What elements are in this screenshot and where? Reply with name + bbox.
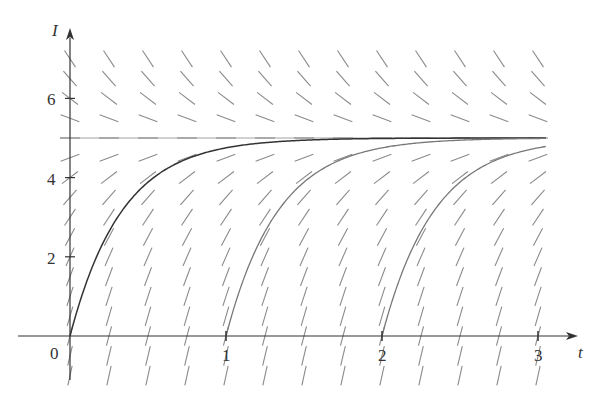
slope-segment — [224, 366, 228, 386]
slope-segment — [179, 92, 195, 104]
slope-segment — [178, 154, 197, 161]
slope-segment — [184, 287, 190, 306]
slope-segment — [257, 172, 273, 184]
slope-segment — [217, 115, 236, 122]
direction-field-plot — [0, 0, 597, 399]
y-tick-label-6: 6 — [47, 91, 56, 108]
slope-segment — [258, 190, 271, 205]
slope-segment — [101, 92, 117, 104]
slope-segment — [533, 50, 544, 67]
slope-segment — [412, 154, 431, 161]
slope-segment — [262, 287, 268, 306]
slope-segment — [455, 50, 466, 67]
slope-segment — [183, 267, 190, 286]
slope-segment — [100, 154, 119, 161]
slope-segment — [223, 287, 229, 306]
slope-segment — [456, 267, 463, 286]
slope-segment — [455, 209, 466, 226]
slope-segment — [417, 267, 424, 286]
slope-segment — [458, 346, 463, 365]
slope-segment — [457, 307, 463, 326]
slope-segment — [496, 287, 502, 306]
slope-segment — [179, 172, 195, 184]
solution-curve-1 — [226, 138, 546, 336]
y-axis-label: I — [52, 22, 58, 39]
slope-segment — [377, 209, 388, 226]
slope-segment — [530, 172, 546, 184]
slope-segment — [340, 307, 346, 326]
slope-segment — [296, 92, 312, 104]
slope-segment — [379, 287, 385, 306]
slope-segment — [492, 190, 505, 205]
slope-segment — [180, 190, 193, 205]
slope-segment — [490, 115, 509, 122]
slope-segment — [374, 92, 390, 104]
slope-segment — [533, 228, 542, 246]
slope-segment — [373, 115, 392, 122]
slope-segment — [141, 71, 154, 86]
slope-segment — [416, 209, 427, 226]
slope-segment — [256, 115, 275, 122]
slope-segment — [261, 267, 268, 286]
slope-segment — [533, 209, 544, 226]
slope-segment — [458, 366, 462, 386]
slope-segment — [336, 71, 349, 86]
slope-segment — [143, 228, 152, 246]
slope-segment — [452, 92, 468, 104]
y-tick-label-4: 4 — [47, 171, 56, 188]
slope-segment — [455, 228, 464, 246]
slope-segment — [139, 154, 158, 161]
slope-segment — [143, 209, 154, 226]
slope-segment — [490, 154, 509, 161]
slope-segment — [378, 267, 385, 286]
slope-segment — [295, 115, 314, 122]
x-axis-label: t — [578, 344, 583, 361]
slope-segment — [222, 248, 230, 266]
slope-segment — [529, 154, 548, 161]
slope-segment — [418, 307, 424, 326]
slope-segment — [341, 366, 345, 386]
slope-segment — [335, 92, 351, 104]
slope-segment — [300, 248, 308, 266]
slope-segment — [453, 190, 466, 205]
slope-segment — [141, 190, 154, 205]
slope-segment — [218, 92, 234, 104]
slope-segment — [262, 307, 268, 326]
y-tick-label-2: 2 — [47, 250, 56, 267]
slope-segment — [377, 228, 386, 246]
slope-segment — [102, 71, 115, 86]
slope-segment — [105, 248, 113, 266]
slope-segment — [263, 366, 267, 386]
slope-segment — [104, 50, 115, 67]
slope-segment — [182, 50, 193, 67]
slope-segment — [338, 228, 347, 246]
slope-segment — [341, 346, 346, 365]
slope-segment — [260, 209, 271, 226]
slope-segment — [339, 248, 347, 266]
slope-segment — [534, 267, 541, 286]
slope-segment — [535, 307, 541, 326]
slope-segment — [297, 190, 310, 205]
slope-segment — [145, 287, 151, 306]
slope-segment — [340, 287, 346, 306]
slope-segment — [140, 92, 156, 104]
slope-segment — [222, 267, 229, 286]
slope-segment — [335, 172, 351, 184]
slope-segment — [495, 248, 503, 266]
slope-segment — [379, 307, 385, 326]
slope-segment — [299, 50, 310, 67]
slope-segment — [221, 209, 232, 226]
slope-segment — [221, 228, 230, 246]
slope-segment — [457, 287, 463, 306]
slope-segment — [334, 154, 353, 161]
slope-segment — [536, 366, 540, 386]
slope-segment — [302, 346, 307, 365]
slope-segment — [417, 248, 425, 266]
slope-segment — [299, 209, 310, 226]
slope-segment — [146, 366, 150, 386]
origin-label: 0 — [50, 345, 59, 362]
slope-segment — [377, 50, 388, 67]
slope-segment — [414, 190, 427, 205]
slope-segment — [258, 71, 271, 86]
slope-segment — [530, 92, 546, 104]
